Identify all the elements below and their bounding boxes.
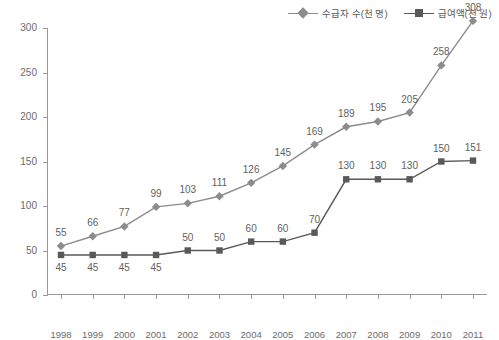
chart-legend: 수급자 수(천 명) 급여액(천 원) <box>288 6 492 20</box>
data-label: 50 <box>214 232 225 243</box>
data-point-marker <box>405 108 413 116</box>
plot-area: 050100150200250300 556677991031111261451… <box>47 28 487 295</box>
y-tick: 0 <box>43 295 48 296</box>
data-point-marker <box>58 252 64 258</box>
x-tick-label: 2010 <box>431 329 452 340</box>
data-label: 308 <box>465 2 482 13</box>
data-point-marker <box>374 117 382 125</box>
x-tick-label: 2006 <box>304 329 325 340</box>
data-label: 45 <box>55 262 66 273</box>
data-label: 130 <box>338 160 355 171</box>
data-point-marker <box>215 192 223 200</box>
x-tick-label: 2003 <box>209 329 230 340</box>
square-marker-icon <box>404 8 434 18</box>
data-point-marker <box>248 238 254 244</box>
x-tick-label: 2008 <box>367 329 388 340</box>
data-label: 103 <box>179 184 196 195</box>
data-point-marker <box>247 179 255 187</box>
data-label: 130 <box>370 160 387 171</box>
data-label: 99 <box>151 188 162 199</box>
data-point-marker <box>406 176 412 182</box>
data-label: 77 <box>119 207 130 218</box>
data-label: 50 <box>182 232 193 243</box>
data-point-marker <box>152 203 160 211</box>
y-tick-label: 150 <box>20 156 37 167</box>
data-label: 258 <box>433 46 450 57</box>
series-lines <box>47 28 487 295</box>
x-tick-label: 2000 <box>114 329 135 340</box>
y-tick-label: 0 <box>31 289 37 300</box>
x-tick-label: 2005 <box>272 329 293 340</box>
data-label: 111 <box>212 177 227 188</box>
data-point-marker <box>279 162 287 170</box>
data-point-marker <box>343 176 349 182</box>
data-point-marker <box>375 176 381 182</box>
data-point-marker <box>120 222 128 230</box>
legend-label-recipients: 수급자 수(천 명) <box>322 6 388 20</box>
data-point-marker <box>153 252 159 258</box>
data-point-marker <box>311 230 317 236</box>
data-label: 150 <box>433 143 450 154</box>
data-label: 70 <box>309 214 320 225</box>
y-tick-label: 50 <box>26 245 37 256</box>
data-point-marker <box>57 242 65 250</box>
x-tick-label: 1999 <box>82 329 103 340</box>
x-tick-label: 2001 <box>145 329 166 340</box>
data-label: 45 <box>87 262 98 273</box>
data-point-marker <box>470 157 476 163</box>
data-label: 130 <box>401 160 418 171</box>
data-label: 169 <box>306 126 323 137</box>
data-point-marker <box>185 247 191 253</box>
data-label: 55 <box>55 227 66 238</box>
y-tick-label: 300 <box>20 22 37 33</box>
data-point-marker <box>88 232 96 240</box>
diamond-marker-icon <box>288 8 318 18</box>
legend-entry-recipients: 수급자 수(천 명) <box>288 6 388 20</box>
data-label: 60 <box>246 223 257 234</box>
x-tick-label: 2009 <box>399 329 420 340</box>
data-label: 66 <box>87 217 98 228</box>
data-label: 151 <box>465 142 482 153</box>
data-label: 205 <box>401 94 418 105</box>
data-point-marker <box>89 252 95 258</box>
data-label: 189 <box>338 108 355 119</box>
data-label: 45 <box>119 262 130 273</box>
data-label: 126 <box>243 164 260 175</box>
data-point-marker <box>310 140 318 148</box>
y-tick-label: 200 <box>20 111 37 122</box>
x-tick-label: 1998 <box>50 329 71 340</box>
data-label: 60 <box>277 223 288 234</box>
data-label: 45 <box>151 262 162 273</box>
data-point-marker <box>438 158 444 164</box>
data-point-marker <box>184 199 192 207</box>
x-tick-label: 2004 <box>241 329 262 340</box>
x-tick-label: 2007 <box>336 329 357 340</box>
y-tick-label: 250 <box>20 67 37 78</box>
data-point-marker <box>342 123 350 131</box>
data-point-marker <box>216 247 222 253</box>
x-tick-label: 2011 <box>463 329 483 340</box>
data-point-marker <box>280 238 286 244</box>
y-tick-label: 100 <box>20 200 37 211</box>
data-label: 195 <box>370 102 387 113</box>
data-point-marker <box>121 252 127 258</box>
data-label: 145 <box>275 147 292 158</box>
x-tick-label: 2002 <box>177 329 198 340</box>
